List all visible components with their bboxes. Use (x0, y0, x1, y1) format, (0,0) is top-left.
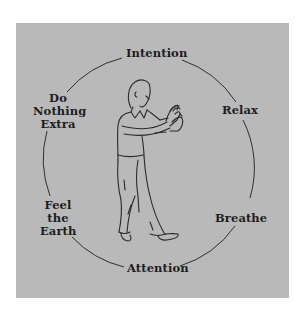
label-attention-text: Attention (127, 262, 179, 275)
label-intention: Intention (126, 47, 176, 60)
person-figure-icon (118, 80, 183, 241)
label-feel-the-earth: Feel the Earth (40, 199, 76, 238)
label-relax-text: Relax (222, 104, 258, 117)
label-intention-text: Intention (126, 47, 176, 60)
label-breathe-text: Breathe (215, 212, 265, 225)
label-do-line-3: Extra (33, 118, 83, 131)
label-breathe: Breathe (215, 212, 265, 225)
label-relax: Relax (222, 104, 258, 117)
label-do-nothing-extra: Do Nothing Extra (33, 92, 83, 131)
label-feel-line-3: Earth (40, 225, 76, 238)
label-attention: Attention (127, 262, 179, 275)
